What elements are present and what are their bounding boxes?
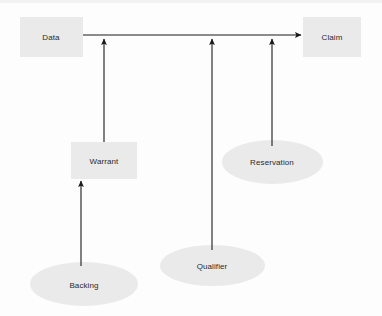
node-shape-reservation xyxy=(222,140,323,184)
diagram-svg xyxy=(0,0,382,316)
diagram-canvas: Data Claim Warrant Reservation Qualifier… xyxy=(0,0,382,316)
node-shape-claim xyxy=(303,17,361,57)
node-shape-data xyxy=(20,17,83,57)
node-shape-warrant xyxy=(71,142,137,179)
node-shape-qualifier xyxy=(160,245,265,286)
node-shape-backing xyxy=(30,262,138,306)
